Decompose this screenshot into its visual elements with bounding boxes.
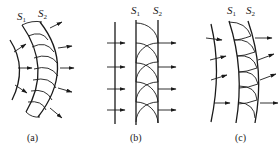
huygens-principle-diagram: S1 S2 (a) S1 S2 (b) (0, 0, 278, 152)
caption-b: (b) (130, 132, 142, 144)
label-s1: S1 (131, 4, 141, 18)
label-s1: S1 (17, 10, 27, 24)
panel-c: S1 S2 (c) (206, 4, 278, 144)
caption-a: (a) (27, 132, 38, 144)
panel-a: S1 S2 (a) (10, 7, 74, 144)
label-s2: S2 (246, 4, 256, 18)
wavefront-s2 (38, 22, 58, 117)
label-s1: S1 (227, 4, 237, 18)
label-s2: S2 (153, 4, 163, 18)
wavefront-s1 (229, 21, 239, 123)
caption-c: (c) (235, 132, 246, 144)
panel-b: S1 S2 (b) (107, 4, 176, 144)
label-s2: S2 (38, 7, 48, 21)
